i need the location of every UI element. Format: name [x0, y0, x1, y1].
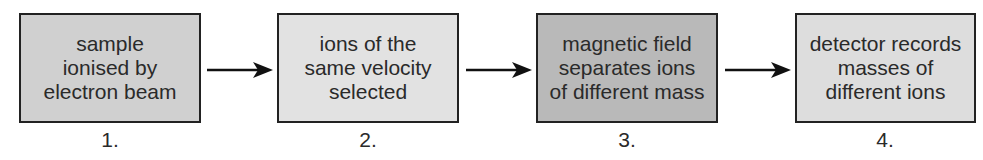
right-arrow-icon [725, 60, 791, 80]
step-4-box: detector records masses of different ion… [795, 13, 976, 123]
step-1-number: 1. [90, 128, 130, 152]
right-arrow-icon [207, 60, 273, 80]
step-1-box: sample ionised by electron beam [19, 13, 201, 123]
step-2-text: ions of the same velocity selected [304, 32, 431, 104]
step-4-text: detector records masses of different ion… [810, 32, 962, 104]
step-2-number: 2. [348, 128, 388, 152]
step-3-text: magnetic field separates ions of differe… [550, 32, 705, 104]
step-2-box: ions of the same velocity selected [277, 13, 459, 123]
step-4-number: 4. [865, 128, 905, 152]
step-3-number: 3. [607, 128, 647, 152]
step-3-box: magnetic field separates ions of differe… [536, 13, 718, 123]
right-arrow-icon [466, 60, 532, 80]
step-1-text: sample ionised by electron beam [43, 32, 176, 104]
